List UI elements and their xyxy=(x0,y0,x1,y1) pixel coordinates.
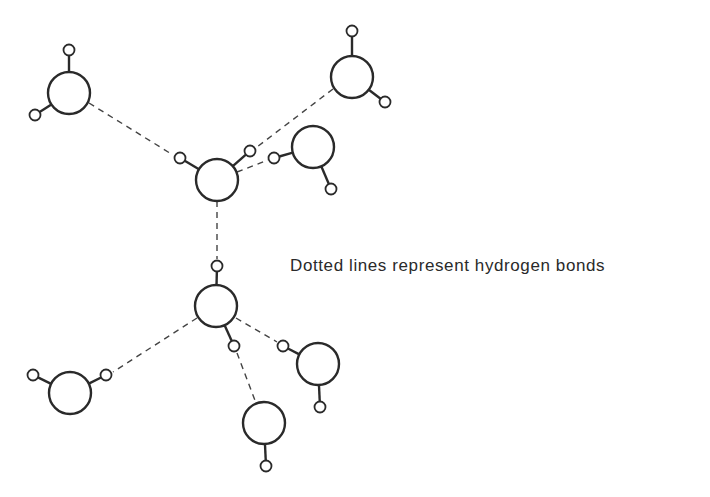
covalent-bond xyxy=(279,153,292,157)
covalent-bond xyxy=(40,104,52,112)
hydrogen-atom xyxy=(30,110,41,121)
water-molecule-central-lower xyxy=(195,261,240,352)
hydrogen-atom xyxy=(278,341,289,352)
oxygen-atom xyxy=(243,402,285,444)
covalent-bond xyxy=(89,377,101,383)
hydrogen-atom xyxy=(261,461,272,472)
covalent-bond xyxy=(369,90,381,99)
hydrogen-atom xyxy=(28,370,39,381)
hydrogen-atom xyxy=(64,45,75,56)
water-molecule-bottom-left xyxy=(28,370,112,415)
covalent-bond xyxy=(38,377,51,383)
oxygen-atom xyxy=(48,72,90,114)
oxygen-atom xyxy=(331,56,373,98)
covalent-bond xyxy=(233,155,246,167)
hydrogen-bond-line xyxy=(113,318,197,372)
hydrogen-atom xyxy=(212,261,223,272)
oxygen-atom xyxy=(196,159,238,201)
water-molecule-right-mid xyxy=(269,126,337,195)
hydrogen-atom xyxy=(269,153,280,164)
hydrogen-atom xyxy=(245,146,256,157)
hydrogen-atom xyxy=(326,184,337,195)
caption-text: Dotted lines represent hydrogen bonds xyxy=(290,256,605,276)
water-hydrogen-bond-diagram xyxy=(0,0,710,497)
water-molecule-bottom xyxy=(243,402,285,472)
oxygen-atom xyxy=(292,126,334,168)
covalent-bond xyxy=(319,385,320,402)
hydrogen-atom xyxy=(380,97,391,108)
hydrogen-atom xyxy=(315,402,326,413)
oxygen-atom xyxy=(49,372,91,414)
water-molecule-central-upper xyxy=(175,146,256,202)
hydrogen-bond-line xyxy=(237,353,256,403)
covalent-bond xyxy=(288,349,299,355)
hydrogen-bond-line xyxy=(237,160,268,172)
water-molecule-top-left xyxy=(30,45,91,121)
hydrogen-bond-line xyxy=(89,103,173,155)
oxygen-atom xyxy=(297,343,339,385)
covalent-bond xyxy=(265,444,266,461)
hydrogen-atom xyxy=(175,153,186,164)
covalent-bond xyxy=(225,325,232,341)
hydrogen-atom xyxy=(347,26,358,37)
hydrogen-bond-line xyxy=(236,318,277,342)
water-molecules xyxy=(28,26,391,472)
hydrogen-atom xyxy=(101,370,112,381)
water-molecule-bottom-right xyxy=(278,341,340,413)
water-molecule-top-right xyxy=(331,26,391,108)
covalent-bond xyxy=(185,161,199,169)
hydrogen-atom xyxy=(229,341,240,352)
oxygen-atom xyxy=(195,285,237,327)
covalent-bond xyxy=(321,166,329,184)
